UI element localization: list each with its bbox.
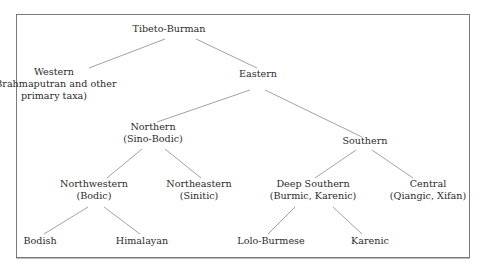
edge-northern-northeastern: [165, 149, 201, 178]
node-western: Western (Brahmaputran and other primary …: [0, 66, 116, 102]
edge-southern-deep-southern: [315, 150, 356, 178]
node-label: Deep Southern: [270, 178, 357, 190]
node-label: Tibeto-Burman: [133, 23, 206, 35]
node-northeastern: Northeastern (Sinitic): [166, 178, 231, 202]
node-himalayan: Himalayan: [116, 235, 168, 247]
edge-northern-northwestern: [107, 149, 142, 178]
node-label: Himalayan: [116, 235, 168, 247]
edge-southern-central: [372, 150, 413, 178]
node-central: Central (Qiangic, Xifan): [390, 178, 466, 202]
node-eastern: Eastern: [239, 68, 277, 80]
edge-northwestern-bodish: [44, 207, 88, 234]
node-tibeto-burman: Tibeto-Burman: [133, 23, 206, 35]
node-label: Northeastern: [166, 178, 231, 190]
node-label: Southern: [342, 135, 387, 147]
node-southern: Southern: [342, 135, 387, 147]
node-label: Bodish: [23, 235, 56, 247]
edge-deep-southern-lolo-burmese: [268, 207, 295, 234]
node-sublabel: (Sino-Bodic): [123, 133, 183, 145]
node-label: Eastern: [239, 68, 277, 80]
node-label: Karenic: [351, 235, 389, 247]
edge-tibeto-burman-eastern: [196, 39, 257, 68]
node-label: Lolo-Burmese: [237, 235, 304, 247]
node-lolo-burmese: Lolo-Burmese: [237, 235, 304, 247]
edge-deep-southern-karenic: [333, 207, 362, 234]
node-deep-southern: Deep Southern (Burmic, Karenic): [270, 178, 357, 202]
edge-tibeto-burman-western: [89, 39, 165, 68]
node-sublabel: (Bodic): [60, 190, 128, 202]
node-label: Western: [0, 66, 116, 78]
node-label: Northwestern: [60, 178, 128, 190]
node-label: Northern: [123, 121, 183, 133]
node-bodish: Bodish: [23, 235, 56, 247]
edge-eastern-southern: [265, 90, 362, 137]
node-label: Central: [390, 178, 466, 190]
node-northern: Northern (Sino-Bodic): [123, 121, 183, 145]
node-sublabel: (Burmic, Karenic): [270, 190, 357, 202]
edge-northwestern-himalayan: [104, 207, 140, 234]
tree-edges: [0, 0, 481, 269]
node-sublabel: (Sinitic): [166, 190, 231, 202]
node-karenic: Karenic: [351, 235, 389, 247]
node-sublabel: (Brahmaputran and other: [0, 78, 116, 90]
node-sublabel: primary taxa): [0, 90, 116, 102]
node-sublabel: (Qiangic, Xifan): [390, 190, 466, 202]
node-northwestern: Northwestern (Bodic): [60, 178, 128, 202]
edge-eastern-northern: [157, 90, 250, 122]
